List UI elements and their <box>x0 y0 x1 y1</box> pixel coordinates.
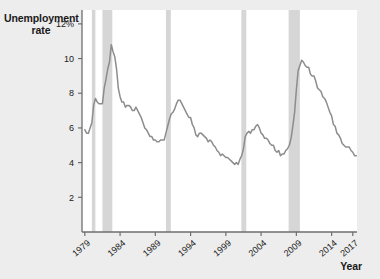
y-tick-label: 4 <box>69 158 74 168</box>
recession-band <box>241 10 246 232</box>
x-tick-label: 1994 <box>176 238 198 259</box>
y-tick-label: 12% <box>56 19 74 29</box>
x-tick-label: 2017 <box>338 238 360 259</box>
y-tick-label: 2 <box>69 193 74 203</box>
x-tick-label: 2004 <box>247 238 269 259</box>
x-tick-label: 1984 <box>106 238 128 259</box>
y-axis-ticks: 24681012% <box>56 19 82 202</box>
x-tick-label: 1989 <box>141 238 163 259</box>
x-axis-ticks: 197919841989199419992004200920142017 <box>70 232 360 258</box>
y-tick-label: 6 <box>69 123 74 133</box>
x-tick-label: 1979 <box>70 238 92 259</box>
y-tick-label: 10 <box>64 54 74 64</box>
y-tick-label: 8 <box>69 88 74 98</box>
chart-plot-area: 24681012% 197919841989199419992004200920… <box>0 0 380 279</box>
recession-band <box>102 10 112 232</box>
plot-background <box>82 10 357 232</box>
unemployment-rate-chart: Unemployment rate Year 24681012% 1979198… <box>0 0 380 279</box>
x-tick-label: 2014 <box>317 238 339 259</box>
x-tick-label: 2009 <box>282 238 304 259</box>
x-tick-label: 1999 <box>211 238 233 259</box>
